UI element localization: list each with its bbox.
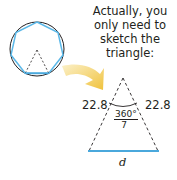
apex-angle-fraction: 360° 7 xyxy=(114,109,134,130)
angle-numerator: 360° xyxy=(114,109,138,120)
apex-angle-arc xyxy=(109,103,137,107)
small-triangle-right-side xyxy=(37,50,49,73)
left-side-length: 22.8 xyxy=(82,98,108,112)
caption-text: Actually, you only need to sketch the tr… xyxy=(86,4,174,60)
base-label-d: d xyxy=(119,155,126,169)
small-triangle-left-side xyxy=(25,50,37,73)
curved-arrow-icon xyxy=(62,64,104,90)
right-side-length: 22.8 xyxy=(145,98,171,112)
angle-denominator: 7 xyxy=(121,120,127,130)
circumscribed-circle xyxy=(10,22,64,76)
